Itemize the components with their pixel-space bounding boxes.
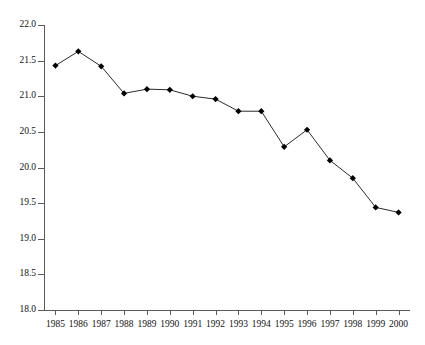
y-axis-tick <box>38 274 44 275</box>
y-axis-tick <box>38 132 44 133</box>
y-axis-tick <box>38 96 44 97</box>
series-marker-group <box>52 48 401 215</box>
data-point-marker <box>52 63 58 69</box>
data-point-marker <box>395 209 401 215</box>
data-series-layer <box>0 0 425 345</box>
y-axis-tick <box>38 203 44 204</box>
y-axis-tick <box>38 168 44 169</box>
data-point-marker <box>190 93 196 99</box>
data-point-marker <box>167 87 173 93</box>
data-point-marker <box>144 86 150 92</box>
series-line <box>55 51 398 212</box>
y-axis-tick <box>38 239 44 240</box>
data-point-marker <box>258 108 264 114</box>
y-axis-tick <box>38 61 44 62</box>
chart-figure: 18.018.519.019.520.020.521.021.522.0 198… <box>0 0 425 345</box>
data-point-marker <box>212 96 218 102</box>
y-axis-tick <box>38 310 44 311</box>
data-point-marker <box>75 48 81 54</box>
y-axis-tick <box>38 25 44 26</box>
data-point-marker <box>235 108 241 114</box>
